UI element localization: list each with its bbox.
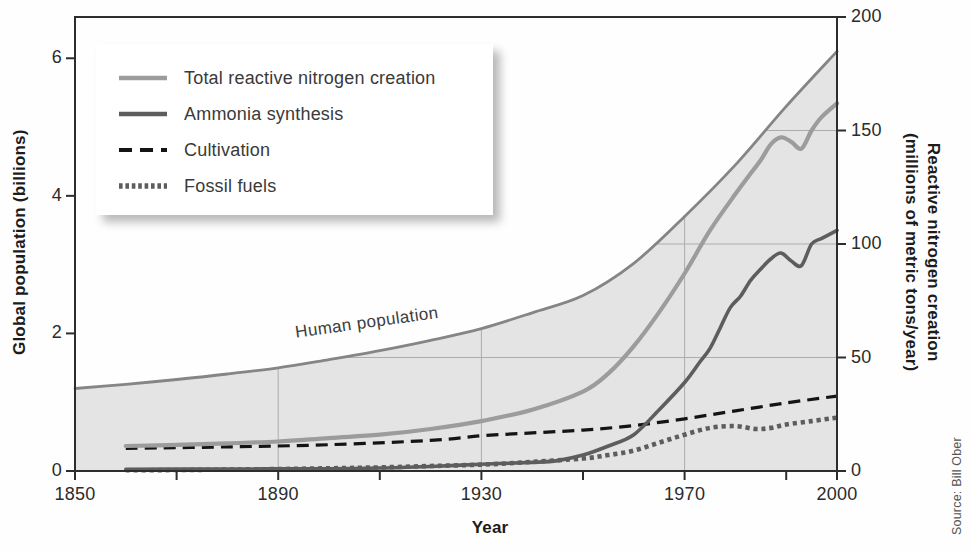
x-tick-label: 1930	[449, 484, 513, 505]
x-tick-label: 1850	[43, 484, 107, 505]
legend-item-label: Cultivation	[184, 140, 270, 161]
legend-item-label: Total reactive nitrogen creation	[184, 68, 436, 89]
nitrogen-population-chart: 185018901930197020000246050100150200 Glo…	[0, 0, 970, 552]
legend-item-label: Ammonia synthesis	[184, 104, 343, 125]
legend-item-cultivation: Cultivation	[96, 132, 493, 168]
legend-item-fossil: Fossil fuels	[96, 168, 493, 204]
y-left-tick-label: 0	[18, 460, 62, 481]
ammonia-line-swatch	[118, 109, 168, 119]
legend-item-ammonia: Ammonia synthesis	[96, 96, 493, 132]
right-axis-title-line2: (millions of metric tons/year)	[902, 133, 921, 371]
source-credit: Source: Bill Ober	[950, 437, 964, 535]
left-axis-title: Global population (billions)	[10, 129, 30, 355]
legend-item-total: Total reactive nitrogen creation	[96, 60, 493, 96]
y-right-tick-label: 50	[851, 347, 872, 368]
y-right-tick-label: 150	[851, 120, 882, 141]
x-tick-label: 2000	[805, 484, 869, 505]
y-right-tick-label: 100	[851, 233, 882, 254]
y-right-tick-label: 0	[851, 460, 861, 481]
right-axis-title: Reactive nitrogen creation (millions of …	[900, 133, 944, 371]
cultivation-line-swatch	[118, 145, 168, 155]
y-left-tick-label: 6	[18, 47, 62, 68]
fossil-line-swatch	[118, 181, 168, 191]
x-tick-label: 1970	[653, 484, 717, 505]
x-axis-title: Year	[430, 518, 550, 538]
right-axis-title-line1: Reactive nitrogen creation	[924, 143, 943, 362]
legend-item-label: Fossil fuels	[184, 176, 276, 197]
legend-box: Total reactive nitrogen creation Ammonia…	[96, 44, 493, 215]
y-right-tick-label: 200	[851, 6, 882, 27]
x-tick-label: 1890	[246, 484, 310, 505]
total-line-swatch	[118, 73, 168, 83]
